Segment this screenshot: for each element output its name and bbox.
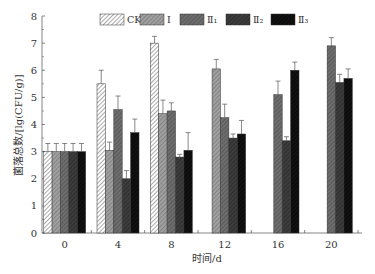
y-tick-label: 8	[31, 11, 37, 22]
legend-item: Ⅱ₃	[271, 14, 308, 25]
bar-1-2	[114, 110, 122, 233]
bar-1-4	[131, 133, 139, 233]
bar-1-1	[105, 150, 113, 233]
y-tick-label: 4	[31, 119, 37, 130]
bar-2-3	[176, 157, 184, 233]
bar-5-2	[327, 46, 335, 233]
bar-0-2	[60, 152, 68, 233]
bar-chart: CKⅠⅡ₁Ⅱ₂Ⅱ₃ 012345678048121620 菌落总数/[lg(CF…	[0, 0, 375, 274]
y-tick-label: 1	[31, 200, 37, 211]
bar-0-4	[77, 152, 85, 233]
x-tick-label: 16	[272, 239, 285, 250]
y-tick-label: 7	[31, 38, 37, 49]
bar-1-3	[122, 179, 130, 233]
bar-5-4	[344, 78, 352, 233]
bar-1-0	[97, 84, 105, 233]
legend-swatch	[100, 14, 124, 25]
bar-0-1	[52, 152, 60, 233]
bar-5-3	[336, 82, 344, 233]
bar-0-3	[69, 152, 77, 233]
bar-4-4	[291, 70, 299, 233]
bar-3-4	[237, 134, 245, 233]
y-tick-label: 5	[31, 92, 37, 103]
bar-2-0	[150, 43, 158, 233]
x-tick-label: 20	[325, 239, 338, 250]
bar-2-2	[167, 111, 175, 233]
legend-label: Ⅱ₁	[207, 14, 217, 25]
x-tick-label: 4	[115, 239, 121, 250]
bar-3-2	[220, 118, 228, 233]
bar-3-3	[229, 138, 237, 233]
y-tick-label: 3	[31, 146, 37, 157]
x-tick-label: 8	[168, 239, 174, 250]
legend-item: Ⅰ	[140, 14, 171, 25]
bar-0-0	[44, 152, 52, 233]
bar-2-1	[159, 114, 167, 233]
legend: CKⅠⅡ₁Ⅱ₂Ⅱ₃	[100, 14, 308, 25]
legend-item: CK	[100, 14, 142, 25]
x-tick-label: 0	[61, 239, 67, 250]
bars	[44, 36, 353, 233]
legend-swatch	[180, 14, 204, 25]
bar-2-4	[184, 150, 192, 233]
legend-swatch	[271, 14, 295, 25]
bar-3-1	[212, 69, 220, 233]
legend-swatch	[140, 14, 164, 25]
bar-4-3	[282, 141, 290, 233]
legend-label: Ⅰ	[167, 14, 171, 25]
x-axis-label: 时间/d	[192, 252, 222, 264]
legend-swatch	[226, 14, 250, 25]
y-tick-label: 2	[31, 173, 37, 184]
legend-item: Ⅱ₂	[226, 14, 263, 25]
legend-label: Ⅱ₂	[253, 14, 263, 25]
legend-item: Ⅱ₁	[180, 14, 217, 25]
y-axis-label: 菌落总数/[lg(CFU/g)]	[12, 74, 24, 175]
x-tick-label: 12	[218, 239, 231, 250]
bar-4-2	[274, 95, 282, 233]
y-tick-label: 0	[31, 228, 37, 239]
legend-label: Ⅱ₃	[298, 14, 308, 25]
y-tick-label: 6	[31, 65, 37, 76]
